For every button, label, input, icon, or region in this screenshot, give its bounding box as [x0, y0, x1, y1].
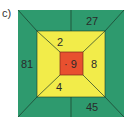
middle-bottom-value: 4 [56, 81, 62, 93]
middle-top-value: 2 [57, 36, 63, 48]
middle-right-value: 8 [91, 58, 97, 70]
outer-top-value: 27 [86, 15, 98, 27]
center-value: · 9 [64, 58, 77, 70]
outer-bottom-value: 45 [86, 101, 98, 113]
outer-left-value: 81 [21, 58, 33, 70]
nested-squares-diagram: 81 27 45 2 8 4 · 9 [0, 0, 127, 129]
